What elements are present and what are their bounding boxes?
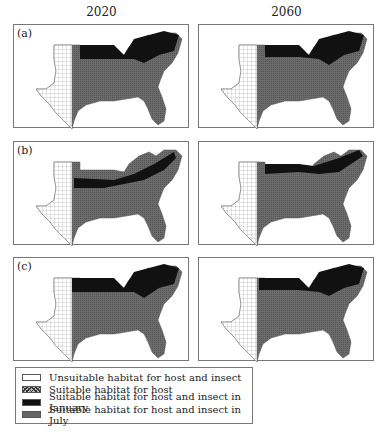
swatch-unsuitable-icon [22, 374, 41, 381]
panel-label: (a) [17, 27, 32, 40]
legend: Unsuitable habitat for host and insect S… [15, 367, 253, 424]
habitat-map-icon [199, 258, 375, 362]
map-panel-c-2020: (c) [13, 257, 189, 361]
panel-label: (c) [17, 260, 32, 273]
habitat-map-icon [199, 142, 375, 246]
legend-label: Suitable habitat for host and insect in … [49, 404, 252, 426]
swatch-host-icon [22, 386, 41, 393]
habitat-map-icon [14, 25, 190, 129]
legend-label: Unsuitable habitat for host and insect [49, 372, 241, 383]
swatch-january-icon [22, 399, 41, 406]
map-panel-a-2020: (a) [13, 24, 189, 128]
swatch-july-icon [22, 411, 41, 418]
map-panel-b-2060 [198, 141, 374, 245]
habitat-map-icon [14, 258, 190, 362]
habitat-map-icon [199, 25, 375, 129]
habitat-map-icon [14, 142, 190, 246]
map-panel-c-2060 [198, 257, 374, 361]
column-title-2020: 2020 [13, 5, 190, 19]
map-panel-b-2020: (b) [13, 141, 189, 245]
map-panel-a-2060 [198, 24, 374, 128]
panel-label: (b) [17, 144, 33, 157]
column-title-2060: 2060 [198, 5, 375, 19]
legend-item-unsuitable: Unsuitable habitat for host and insect [22, 371, 252, 384]
legend-item-july: Suitable habitat for host and insect in … [22, 409, 252, 422]
